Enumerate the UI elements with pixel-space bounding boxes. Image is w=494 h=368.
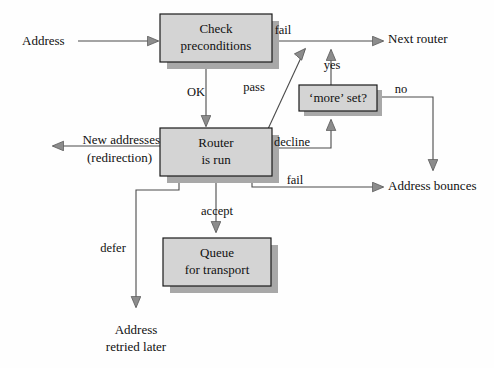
terminal-address-retried-line1: Address (115, 322, 158, 337)
edge-label-decline: decline (274, 135, 311, 149)
node-check-preconditions[interactable]: Check preconditions (160, 14, 279, 69)
terminal-new-addresses-line1: New addresses (82, 132, 160, 147)
terminal-address-bounces: Address bounces (388, 178, 476, 193)
edge-label-pass: pass (243, 80, 265, 94)
diagram-canvas: Check preconditions Router is run ‘more’… (0, 0, 494, 368)
node-check-line1: Check (199, 21, 233, 36)
terminal-new-addresses-line2: (redirection) (87, 150, 152, 165)
edge-label-fail-bottom: fail (287, 173, 304, 187)
node-queue-line1: Queue (200, 245, 234, 260)
node-more-label: ‘more’ set? (309, 90, 367, 105)
node-queue-line2: for transport (185, 262, 250, 277)
node-check-line2: preconditions (181, 38, 252, 53)
terminal-next-router: Next router (388, 31, 448, 46)
flowchart-svg: Check preconditions Router is run ‘more’… (0, 0, 494, 368)
edge-label-yes: yes (324, 58, 341, 72)
edge-label-fail-top: fail (275, 23, 292, 37)
terminal-address-input: Address (22, 33, 65, 48)
edge-label-accept: accept (201, 204, 233, 218)
terminal-address-retried-line2: retried later (106, 339, 167, 354)
edge-label-defer: defer (100, 241, 127, 255)
node-router-line1: Router (198, 135, 234, 150)
edge-label-ok: OK (187, 85, 205, 99)
node-router-line2: is run (201, 152, 231, 167)
node-more-set-decision[interactable]: ‘more’ set? (299, 85, 382, 116)
node-queue-for-transport[interactable]: Queue for transport (163, 238, 278, 293)
edge-label-no: no (395, 82, 408, 96)
node-router-is-run[interactable]: Router is run (160, 128, 279, 183)
